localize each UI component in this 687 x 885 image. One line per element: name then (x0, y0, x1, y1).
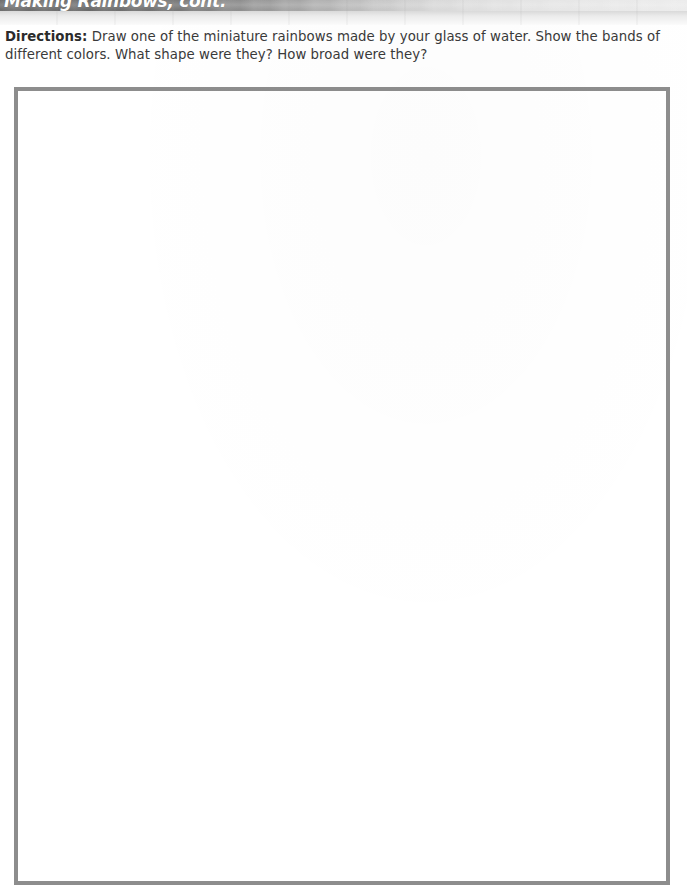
directions-paragraph: Directions: Draw one of the miniature ra… (5, 28, 683, 63)
page-header-banner: Making Rainbows, cont. (0, 0, 687, 25)
page-title: Making Rainbows, cont. (4, 0, 226, 11)
directions-text: Draw one of the miniature rainbows made … (5, 29, 660, 62)
directions-label: Directions: (5, 29, 87, 44)
drawing-answer-box[interactable] (14, 87, 670, 885)
